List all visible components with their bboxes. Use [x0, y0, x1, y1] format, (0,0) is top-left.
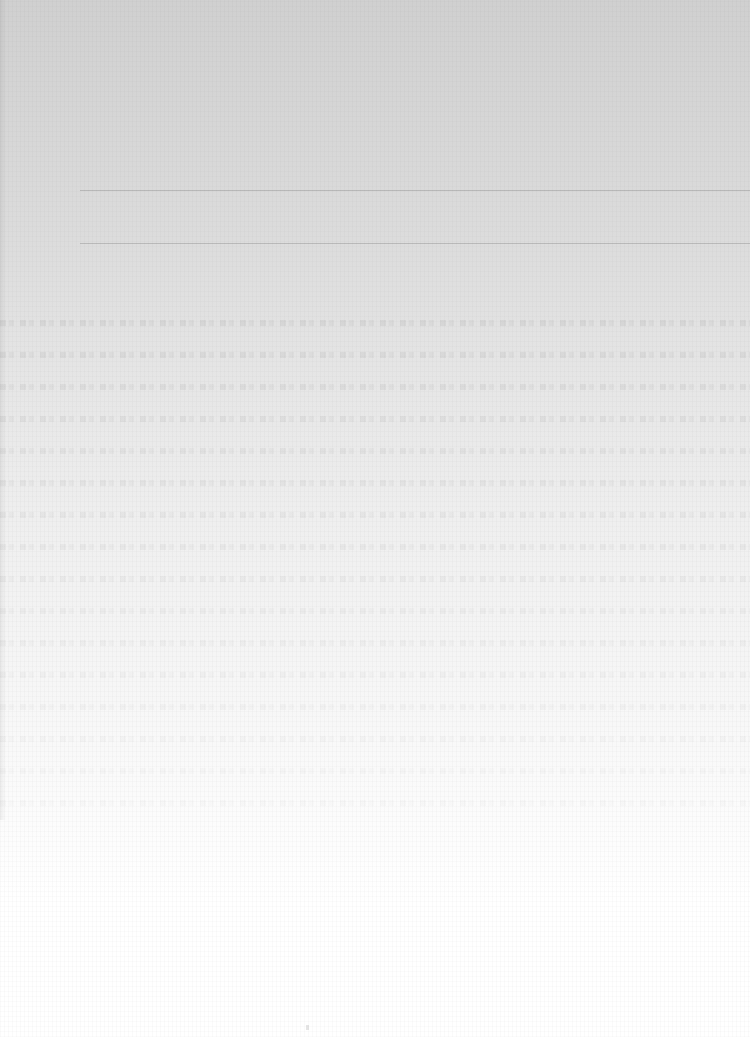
scanned-page — [0, 0, 750, 1037]
horizontal-rule-top — [80, 190, 750, 191]
bleed-through-line — [0, 384, 750, 390]
page-speck — [306, 1025, 309, 1030]
bleed-through-line — [0, 320, 750, 326]
bleed-through-line — [0, 672, 750, 678]
bleed-through-line — [0, 512, 750, 518]
bleed-through-line — [0, 704, 750, 710]
bleed-through-line — [0, 800, 750, 806]
bleed-through-line — [0, 352, 750, 358]
paper-grain — [0, 0, 750, 1037]
bleed-through-line — [0, 640, 750, 646]
bleed-through-line — [0, 576, 750, 582]
bleed-through-line — [0, 480, 750, 486]
bleed-through-line — [0, 544, 750, 550]
bleed-through-line — [0, 608, 750, 614]
horizontal-rule-bottom — [80, 243, 750, 244]
bleed-through-line — [0, 736, 750, 742]
page-left-shadow — [0, 0, 6, 820]
bleed-through-line — [0, 768, 750, 774]
bleed-through-line — [0, 448, 750, 454]
bleed-through-line — [0, 416, 750, 422]
